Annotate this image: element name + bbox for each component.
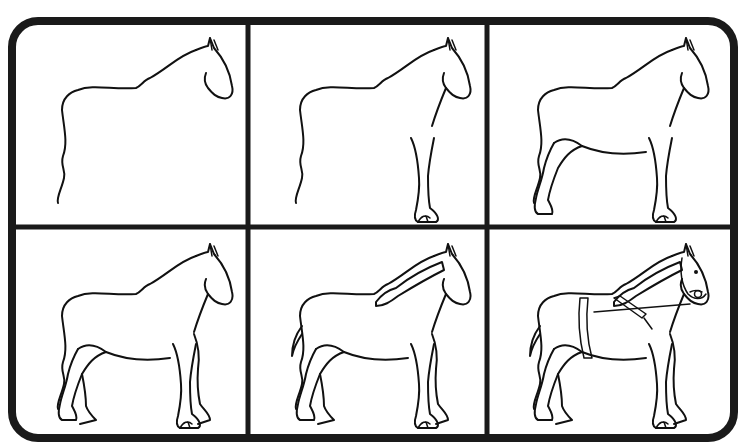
step-2-panel [296, 38, 471, 222]
tutorial-frame [0, 0, 746, 448]
step-6-panel [530, 244, 709, 428]
step-1-panel [58, 38, 233, 203]
step-3-panel [534, 38, 709, 222]
step-4-panel [58, 244, 233, 428]
step-5-panel [292, 244, 471, 428]
